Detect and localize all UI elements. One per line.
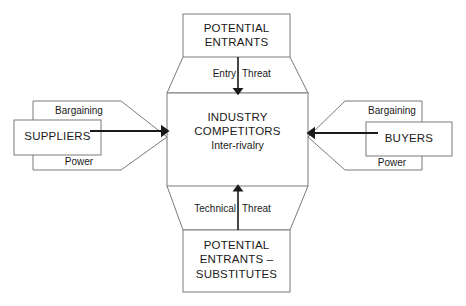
- substitutes-line-2: ENTRANTS –: [183, 252, 290, 266]
- suppliers-label: SUPPLIERS: [14, 130, 101, 144]
- substitutes-line-3: SUBSTITUTES: [183, 267, 290, 281]
- potential-entrants-line-1: POTENTIAL: [183, 21, 290, 35]
- inter-rivalry-label: Inter-rivalry: [167, 139, 308, 151]
- substitutes-line-1: POTENTIAL: [183, 238, 290, 252]
- buyers-bargaining-label: Bargaining: [350, 105, 434, 117]
- technical-threat-right-label: Threat: [242, 203, 288, 215]
- potential-entrants-label: POTENTIAL ENTRANTS: [183, 21, 290, 50]
- industry-competitors-label: INDUSTRY COMPETITORS: [167, 111, 308, 138]
- porters-five-forces-diagram: POTENTIAL ENTRANTS Entry Threat INDUSTRY…: [0, 0, 466, 306]
- buyers-power-label: Power: [350, 157, 434, 169]
- technical-threat-left-label: Technical: [178, 203, 236, 215]
- potential-entrants-line-2: ENTRANTS: [183, 35, 290, 49]
- buyers-label: BUYERS: [366, 132, 452, 146]
- substitutes-label: POTENTIAL ENTRANTS – SUBSTITUTES: [183, 238, 290, 281]
- entry-threat-left-label: Entry: [196, 68, 236, 80]
- suppliers-bargaining-label: Bargaining: [37, 105, 121, 117]
- industry-competitors-line-1: INDUSTRY: [167, 111, 308, 125]
- suppliers-power-label: Power: [37, 156, 121, 168]
- industry-competitors-line-2: COMPETITORS: [167, 125, 308, 139]
- entry-threat-right-label: Threat: [242, 68, 288, 80]
